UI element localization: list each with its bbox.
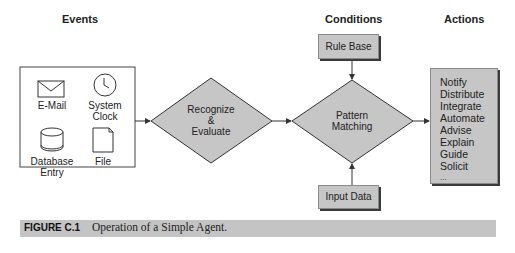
database-icon — [41, 128, 63, 151]
action-item: Notify — [440, 76, 497, 88]
figure-caption: Operation of a Simple Agent. — [92, 221, 227, 233]
pattern-label: PatternMatching — [317, 110, 387, 132]
clock-icon — [94, 74, 116, 96]
actions-header: Actions — [444, 13, 484, 25]
event-clock-label: SystemClock — [82, 100, 128, 122]
action-item: Integrate — [440, 100, 497, 112]
actions-list: Notify Distribute Integrate Automate Adv… — [431, 69, 497, 184]
input-data-box: Input Data — [318, 185, 379, 209]
conditions-header: Conditions — [325, 13, 382, 25]
event-email-label: E-Mail — [30, 100, 74, 111]
actions-box: Notify Distribute Integrate Automate Adv… — [430, 68, 498, 184]
caption-bar: FIGURE C.1 Operation of a Simple Agent. — [20, 220, 496, 237]
events-header: Events — [62, 13, 98, 25]
action-item: Guide — [440, 148, 497, 160]
action-item: ... — [440, 172, 497, 184]
action-item: Advise — [440, 124, 497, 136]
rule-base-box: Rule Base — [318, 34, 379, 59]
action-item: Distribute — [440, 88, 497, 100]
action-item: Solicit — [440, 160, 497, 172]
action-item: Explain — [440, 136, 497, 148]
event-database-label: DatabaseEntry — [26, 156, 78, 178]
file-icon — [93, 128, 113, 152]
figure-label: FIGURE C.1 — [24, 222, 80, 233]
recognize-label: Recognize&Evaluate — [176, 104, 246, 137]
action-item: Automate — [440, 112, 497, 124]
event-file-label: File — [86, 156, 120, 167]
envelope-icon — [38, 81, 64, 97]
